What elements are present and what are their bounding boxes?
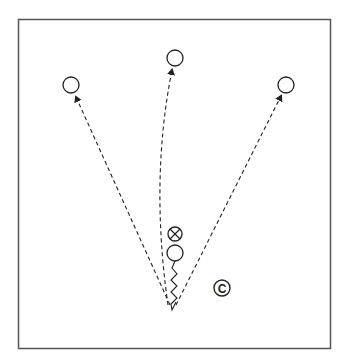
coach-icon: C <box>214 280 230 296</box>
player-receiver-center <box>167 50 183 66</box>
svg-text:C: C <box>218 282 227 296</box>
field-frame <box>19 20 331 349</box>
pass-arrow-right <box>176 96 281 305</box>
drill-diagram: C <box>0 0 348 362</box>
dribble-path <box>171 261 177 310</box>
player-ball-carrier <box>167 245 183 261</box>
pass-arrow-center <box>160 70 172 305</box>
player-receiver-right <box>278 77 294 93</box>
players <box>63 50 294 261</box>
defender-x-icon <box>168 227 182 241</box>
player-receiver-left <box>63 77 79 93</box>
pass-lines <box>76 70 281 305</box>
pass-arrow-left <box>76 97 170 305</box>
